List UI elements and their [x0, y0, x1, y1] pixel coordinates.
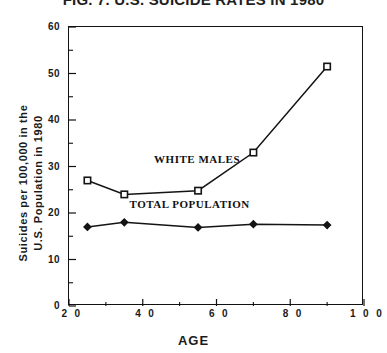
- y-tick-label-60: 60: [34, 21, 60, 32]
- y-tick-label-20: 20: [34, 207, 60, 218]
- y-tick-label-50: 50: [34, 67, 60, 78]
- chart-page: FIG. 7. U.S. SUICIDE RATES IN 1980 Suici…: [0, 0, 387, 353]
- x-tick-label-60: 6 0: [209, 308, 230, 319]
- chart-title: FIG. 7. U.S. SUICIDE RATES IN 1980: [0, 0, 387, 8]
- series-label-2: TOTAL POPULATION: [130, 198, 250, 210]
- x-tick-label-40: 4 0: [135, 308, 156, 319]
- plot-area: [68, 26, 363, 305]
- y-tick-label-10: 10: [34, 253, 60, 264]
- y-tick-label-0: 0: [34, 300, 60, 311]
- y-axis-title-line1: Suicides per 100,000 in the: [16, 68, 31, 298]
- x-tick-label-20: 2 0: [61, 308, 82, 319]
- x-tick-label-80: 8 0: [283, 308, 304, 319]
- series-label-1: WHITE MALES: [154, 153, 240, 165]
- x-axis-title: AGE: [0, 333, 387, 348]
- data-series-layer: [69, 27, 364, 306]
- x-tick-label-100: 1 0 0: [350, 308, 384, 319]
- y-tick-label-40: 40: [34, 114, 60, 125]
- y-tick-label-30: 30: [34, 160, 60, 171]
